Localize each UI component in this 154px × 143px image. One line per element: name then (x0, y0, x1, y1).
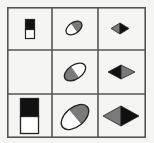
cell-r2-c0 (21, 99, 39, 134)
medium-diamond-shape (108, 65, 135, 79)
small-rectangle-shape (26, 20, 35, 39)
cell-r2-c1 (55, 98, 95, 137)
cell-r0-c1 (60, 14, 88, 42)
large-diamond-shape (103, 106, 139, 126)
cell-r2-c2 (103, 106, 139, 126)
puzzle-grid-svg (7, 7, 146, 138)
cell-r0-c2 (111, 23, 129, 34)
small-diamond-shape (111, 23, 129, 34)
large-ellipse-shape (55, 98, 95, 137)
matrix-puzzle (7, 7, 146, 138)
large-rectangle-shape (21, 99, 39, 134)
medium-ellipse-shape (60, 58, 90, 86)
cell-r1-c2 (108, 65, 135, 79)
cell-r0-c0 (26, 20, 35, 39)
cell-r1-c1 (60, 58, 90, 86)
small-ellipse-shape (60, 14, 88, 42)
